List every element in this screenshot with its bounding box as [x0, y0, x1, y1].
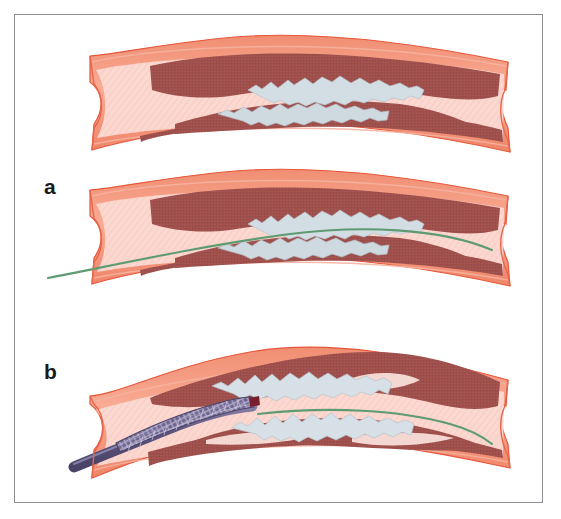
artery-illustration: [0, 0, 561, 519]
vessel-top: [90, 35, 510, 152]
panel-label-b: b: [44, 361, 57, 382]
figure-root: a b: [0, 0, 561, 519]
vessel-bottom: [74, 347, 510, 478]
panel-label-a: a: [44, 176, 56, 197]
vessel-middle: [48, 169, 510, 286]
